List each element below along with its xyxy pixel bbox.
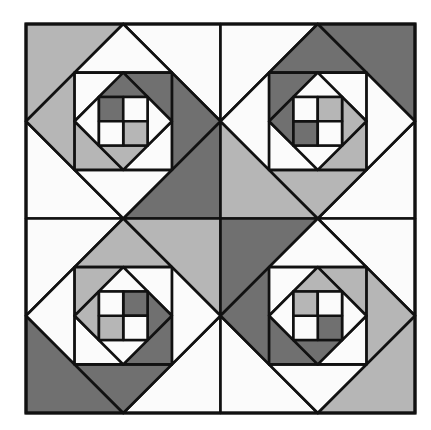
four-patch-tl xyxy=(99,97,123,121)
four-patch-tl xyxy=(318,316,342,340)
four-patch-br xyxy=(318,97,342,121)
four-patch-bl xyxy=(318,121,342,145)
four-patch-br xyxy=(123,121,147,145)
four-patch-br xyxy=(293,291,317,315)
four-patch-tr xyxy=(123,316,147,340)
quilt-block-top-left xyxy=(26,24,221,219)
quilt-block-bottom-left xyxy=(26,219,221,414)
quilt-block-bottom-right xyxy=(221,219,416,414)
quilt-figure: Quilt block pattern xyxy=(0,0,431,430)
four-patch-tr xyxy=(293,316,317,340)
four-patch-tr xyxy=(123,97,147,121)
four-patch-tl xyxy=(123,291,147,315)
four-patch-bl xyxy=(99,291,123,315)
four-patch-tr xyxy=(293,97,317,121)
four-patch-bl xyxy=(99,121,123,145)
four-patch-br xyxy=(99,316,123,340)
four-patch-tl xyxy=(293,121,317,145)
quilt-block-top-right xyxy=(221,24,416,219)
quilt-svg xyxy=(0,0,431,430)
four-patch-bl xyxy=(318,291,342,315)
